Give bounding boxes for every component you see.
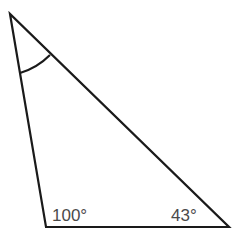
triangle (10, 14, 229, 227)
angle-label-bottom-right: 43° (171, 206, 197, 225)
triangle-diagram: 100° 43° (0, 0, 240, 248)
angle-label-bottom-left: 100° (52, 206, 87, 225)
top-angle-arc (20, 55, 50, 73)
